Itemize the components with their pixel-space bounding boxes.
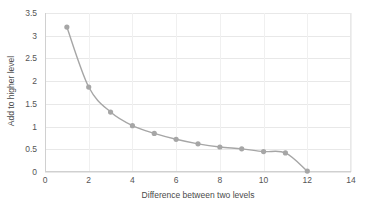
- x-tick-label: 12: [303, 176, 312, 185]
- x-axis-title: Difference between two levels: [45, 190, 351, 200]
- x-axis-tick-labels: 02468101214: [0, 0, 374, 207]
- y-axis-title: Add to higher level: [6, 31, 16, 151]
- chart-container: 00.511.522.533.5 02468101214 Difference …: [0, 0, 374, 207]
- x-tick-label: 8: [217, 176, 222, 185]
- x-tick-label: 4: [130, 176, 135, 185]
- x-tick-label: 10: [259, 176, 268, 185]
- x-tick-label: 2: [86, 176, 91, 185]
- x-tick-label: 14: [346, 176, 355, 185]
- x-tick-label: 0: [43, 176, 48, 185]
- x-tick-label: 6: [174, 176, 179, 185]
